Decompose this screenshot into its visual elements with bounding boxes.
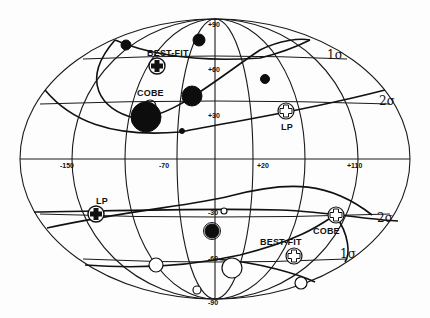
- lon-tick-label: -150: [60, 162, 74, 169]
- lon-tick-label: -70: [159, 162, 169, 169]
- label-lp-north: LP: [281, 123, 293, 132]
- data-point-open: [295, 277, 307, 289]
- sky-map: -150 -70 +20 +110 +90 +60 +30 -30 -60 -9…: [0, 0, 430, 318]
- marker-lp-south: [88, 206, 104, 222]
- marker-best-fit-south: [286, 248, 302, 264]
- data-point-open: [149, 258, 163, 272]
- data-point-filled: [182, 86, 202, 106]
- lat-tick-label: -30: [208, 209, 218, 216]
- aitoff-grid: [0, 0, 430, 318]
- marker-cobe-south: [328, 207, 344, 223]
- data-point-filled: [261, 75, 270, 84]
- label-best-fit-south: BEST-FIT: [260, 238, 302, 247]
- lon-tick-label: +20: [257, 162, 269, 169]
- marker-best-fit-north: [149, 58, 165, 74]
- data-point-filled: [180, 129, 185, 134]
- lon-tick-label: +110: [347, 162, 362, 169]
- label-lp-south: LP: [96, 197, 108, 206]
- data-point-filled: [205, 224, 219, 238]
- lat-tick-label: +60: [208, 66, 220, 73]
- lat-tick-label: +30: [208, 112, 220, 119]
- label-cobe-south: COBE: [313, 227, 340, 236]
- lat-tick-label: -90: [208, 299, 218, 306]
- marker-lp-north: [278, 103, 294, 119]
- label-1sigma-south: 1σ: [340, 248, 356, 260]
- lat-tick-label: -60: [208, 255, 218, 262]
- data-point-filled: [121, 40, 131, 50]
- label-2sigma-south: 2σ: [377, 212, 393, 224]
- label-best-fit-north: BEST-FIT: [147, 49, 189, 58]
- data-point-open: [193, 286, 201, 294]
- data-point-open: [221, 208, 227, 214]
- lat-tick-label: +90: [208, 21, 220, 28]
- contour-1sigma-north: [97, 39, 310, 118]
- data-point-open: [222, 258, 242, 278]
- data-point-filled: [193, 34, 205, 46]
- label-cobe-north: COBE: [137, 89, 164, 98]
- label-1sigma-north: 1σ: [327, 49, 343, 61]
- label-2sigma-north: 2σ: [379, 95, 395, 107]
